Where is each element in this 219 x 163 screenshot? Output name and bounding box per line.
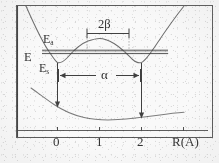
- x-tick-label-2: 2: [137, 135, 144, 148]
- label-Es-subscript: s: [46, 67, 49, 76]
- label-energy-axis: E: [24, 51, 32, 64]
- label-Ea-subscript: a: [50, 38, 53, 47]
- x-tick-label-0: 0: [53, 135, 60, 148]
- potential-energy-figure: Ea E Es 2β α 0 1 2 R(A): [0, 0, 219, 163]
- label-separation: α: [101, 68, 108, 81]
- separation-arrow: [59, 69, 141, 82]
- x-axis-title: R(A): [172, 135, 199, 148]
- label-energy-antisymmetric: Ea: [43, 33, 54, 47]
- transition-arrows: [55, 63, 144, 119]
- energy-levels: [42, 50, 168, 53]
- label-energy-symmetric: Es: [39, 62, 49, 76]
- x-tick-label-1: 1: [96, 135, 103, 148]
- label-splitting: 2β: [98, 18, 111, 31]
- lower-potential-curve: [31, 88, 184, 120]
- transition-arrow-left-head: [55, 102, 60, 108]
